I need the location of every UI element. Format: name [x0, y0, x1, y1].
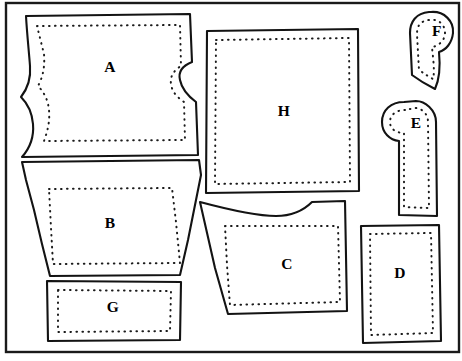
pattern-piece-b-label: B: [105, 214, 116, 231]
pattern-piece-a-outline[interactable]: [21, 14, 198, 157]
pattern-piece-d-label: D: [394, 264, 406, 281]
pattern-piece-f-label: F: [432, 22, 442, 39]
pattern-piece-g[interactable]: G: [47, 281, 181, 341]
pattern-piece-a-label: A: [104, 58, 116, 75]
pattern-diagram-canvas: ABCDEFGH: [0, 0, 462, 361]
pattern-piece-h-label: H: [278, 102, 290, 119]
pattern-piece-d[interactable]: D: [361, 225, 441, 343]
pattern-piece-e[interactable]: E: [382, 101, 437, 216]
pattern-piece-e-label: E: [411, 114, 422, 131]
pattern-piece-c-outline[interactable]: [200, 201, 347, 314]
pattern-piece-a[interactable]: A: [21, 14, 198, 157]
pattern-piece-g-label: G: [107, 298, 119, 315]
pattern-piece-c-label: C: [281, 255, 293, 272]
pattern-piece-c[interactable]: C: [200, 201, 347, 314]
pattern-piece-h[interactable]: H: [206, 29, 359, 193]
pattern-layout-svg: ABCDEFGH: [0, 0, 462, 361]
pattern-piece-b[interactable]: B: [22, 160, 201, 276]
pattern-piece-d-outline[interactable]: [361, 225, 441, 343]
pattern-pieces-group: ABCDEFGH: [21, 12, 453, 343]
pattern-piece-f[interactable]: F: [410, 12, 453, 89]
